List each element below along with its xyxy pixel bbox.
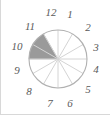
- clock-numeral-7: 7: [43, 98, 57, 109]
- clock-numeral-3: 3: [89, 42, 103, 53]
- clock-numeral-8: 8: [22, 86, 36, 97]
- clock-numeral-12: 12: [44, 7, 58, 18]
- clock-numeral-4: 4: [89, 64, 103, 75]
- clock-numeral-1: 1: [63, 9, 77, 20]
- clock-numeral-11: 11: [23, 21, 37, 32]
- figure-panel: 12 1 2 3 4 5 6 7 8 9 10 11: [0, 0, 110, 115]
- shaded-sector: [29, 34, 58, 59]
- clock-numeral-10: 10: [10, 41, 24, 52]
- clock-numeral-6: 6: [63, 98, 77, 109]
- clock-numeral-5: 5: [81, 84, 95, 95]
- clock-numeral-2: 2: [81, 22, 95, 33]
- clock-numeral-9: 9: [10, 65, 24, 76]
